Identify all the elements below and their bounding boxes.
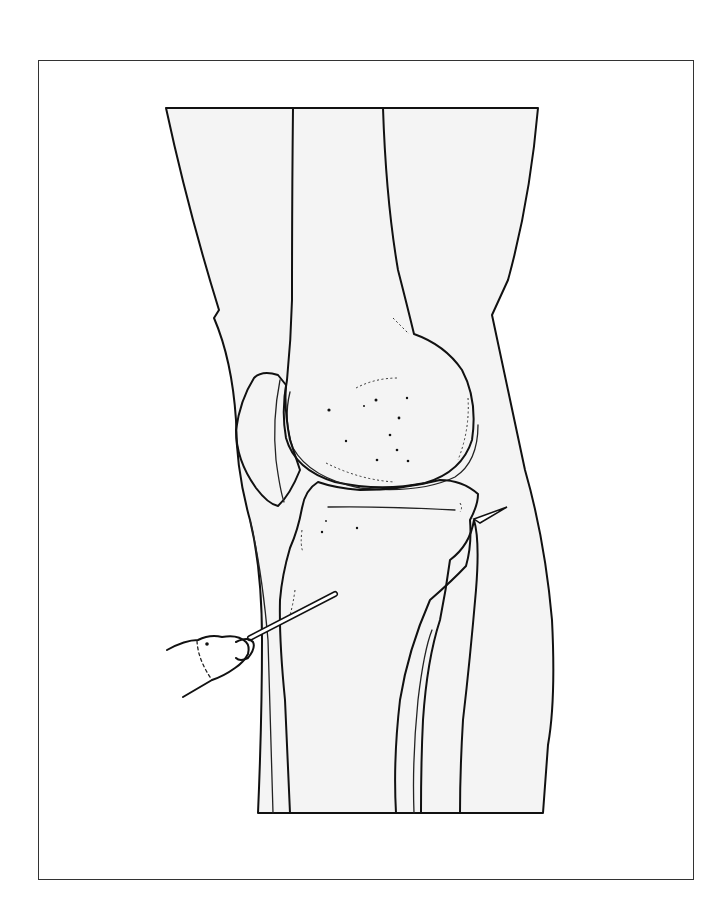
knee-illustration — [0, 0, 727, 909]
leg-soft-tissue — [166, 108, 553, 813]
drill — [167, 636, 254, 697]
